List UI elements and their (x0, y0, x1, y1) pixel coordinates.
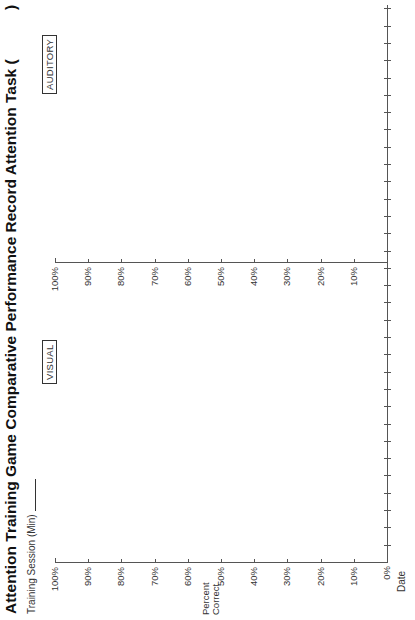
x-tick-mark (384, 43, 391, 44)
x-tick-mark (384, 545, 391, 546)
x-tick-mark (384, 424, 391, 425)
x-tick-mark (384, 302, 391, 303)
x-tick-mark (384, 441, 391, 442)
x-tick-mark (384, 337, 391, 338)
y-tick-mark (188, 559, 189, 563)
y-tick-mark (55, 258, 56, 263)
y-tick-mark (121, 259, 122, 263)
y-tick-label: 90% (82, 267, 93, 297)
y-tick-label: 100% (49, 567, 60, 597)
y-tick-label: 10% (348, 567, 359, 597)
y-tick-mark (55, 558, 56, 563)
y-tick-label: 100% (49, 267, 60, 297)
performance-record-page: Attention Training Game Comparative Perf… (0, 0, 415, 620)
y-tick-label: 70% (149, 567, 160, 597)
x-tick-mark (384, 181, 391, 182)
x-tick-mark (384, 147, 391, 148)
training-session-field: Training Session (Min) (26, 479, 37, 614)
x-tick-mark (384, 251, 391, 252)
x-tick-mark (384, 78, 391, 79)
y-tick-mark (155, 559, 156, 563)
x-tick-mark (384, 475, 391, 476)
x-tick-mark (384, 129, 391, 130)
x-tick-mark (384, 199, 391, 200)
y-tick-label: 50% (215, 267, 226, 297)
title-close-paren: ) (2, 5, 20, 10)
x-tick-mark (384, 285, 391, 286)
x-tick-mark (384, 268, 391, 269)
y-tick-mark (354, 559, 355, 563)
x-tick-mark (384, 510, 391, 511)
x-tick-mark (384, 164, 391, 165)
x-tick-mark (384, 320, 391, 321)
y-tick-mark (155, 259, 156, 263)
y-tick-mark (221, 559, 222, 563)
y-tick-label: 40% (248, 567, 259, 597)
x-tick-mark (384, 458, 391, 459)
x-tick-mark (384, 372, 391, 373)
y-tick-mark (121, 559, 122, 563)
y-tick-label: 60% (182, 567, 193, 597)
page-title: Attention Training Game Comparative Perf… (2, 59, 20, 614)
x-tick-mark (384, 8, 391, 9)
y-tick-label: 90% (82, 567, 93, 597)
y-tick-mark (188, 259, 189, 263)
y-tick-label: 30% (281, 567, 292, 597)
y-tick-label: 40% (248, 267, 259, 297)
y-tick-mark (321, 559, 322, 563)
y-tick-label: 60% (182, 267, 193, 297)
y-tick-mark (221, 259, 222, 263)
x-tick-mark (384, 493, 391, 494)
y-tick-mark (88, 259, 89, 263)
y-tick-mark (254, 559, 255, 563)
x-tick-mark (384, 26, 391, 27)
y-tick-label: 70% (149, 267, 160, 297)
y-tick-label: 50% (215, 567, 226, 597)
y-tick-mark (287, 559, 288, 563)
x-tick-mark (384, 527, 391, 528)
auditory-panel-label: AUDITORY (42, 35, 57, 94)
x-tick-mark (384, 406, 391, 407)
x-axis-line (387, 5, 388, 563)
y-tick-label: 20% (315, 267, 326, 297)
y-tick-label: 80% (115, 567, 126, 597)
y-tick-mark (88, 559, 89, 563)
date-label: Date (396, 571, 407, 592)
x-tick-mark (384, 60, 391, 61)
x-tick-mark (384, 95, 391, 96)
y-tick-mark (254, 259, 255, 263)
x-tick-mark (384, 112, 391, 113)
y-tick-mark (287, 259, 288, 263)
training-session-label: Training Session (Min) (26, 514, 37, 614)
training-session-blank[interactable] (35, 479, 36, 511)
y-tick-label: 20% (315, 567, 326, 597)
x-tick-mark (384, 389, 391, 390)
y-tick-label: 10% (348, 267, 359, 297)
x-tick-mark (384, 216, 391, 217)
y-tick-mark (321, 259, 322, 263)
title-text: Attention Training Game Comparative Perf… (2, 59, 19, 614)
y-tick-mark (354, 259, 355, 263)
y-tick-label: 80% (115, 267, 126, 297)
zero-label: 0% (381, 566, 392, 596)
x-tick-mark (384, 354, 391, 355)
y-tick-label: 30% (281, 267, 292, 297)
x-tick-mark (384, 233, 391, 234)
visual-panel-label: VISUAL (42, 340, 57, 384)
